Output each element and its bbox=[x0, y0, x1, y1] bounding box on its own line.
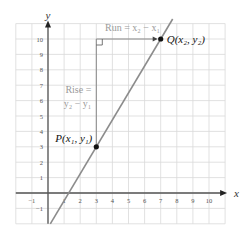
slope-diagram: −112345678910−112345678910 y x P(x₁, y₁)… bbox=[0, 0, 245, 239]
y-tick-label: 9 bbox=[40, 51, 43, 58]
point-p-label: P(x₁, y₁) bbox=[54, 132, 92, 145]
y-tick-label: −1 bbox=[36, 205, 43, 212]
y-tick-label: 8 bbox=[40, 66, 43, 73]
rise-formula-label: y₂ − y₁ bbox=[64, 98, 92, 109]
run-label: Run = x₂ − x₁ bbox=[105, 22, 160, 33]
x-tick-label: 5 bbox=[127, 197, 130, 204]
y-tick-label: 5 bbox=[40, 113, 43, 120]
right-angle-icon bbox=[96, 39, 102, 45]
x-tick-label: 3 bbox=[95, 197, 98, 204]
y-tick-label: 1 bbox=[40, 174, 43, 181]
y-tick-label: 10 bbox=[37, 36, 44, 43]
x-tick-label: 7 bbox=[159, 197, 163, 204]
point-q bbox=[158, 36, 163, 41]
x-axis-arrow-icon bbox=[220, 190, 227, 196]
tick-labels: −112345678910−112345678910 bbox=[28, 36, 212, 212]
point-p bbox=[94, 144, 99, 149]
y-tick-label: 2 bbox=[40, 159, 43, 166]
y-tick-label: 3 bbox=[40, 143, 43, 150]
y-axis-arrow-icon bbox=[45, 21, 51, 28]
x-tick-label: −1 bbox=[28, 197, 35, 204]
rise-label: Rise = bbox=[65, 84, 91, 95]
grid bbox=[16, 24, 225, 224]
x-tick-label: 9 bbox=[191, 197, 194, 204]
point-q-label: Q(x₂, y₂) bbox=[167, 33, 206, 46]
x-tick-label: 6 bbox=[143, 197, 147, 204]
x-tick-label: 10 bbox=[206, 197, 213, 204]
x-tick-label: 2 bbox=[79, 197, 82, 204]
run-arrow-icon bbox=[153, 37, 158, 42]
y-axis-label: y bbox=[45, 9, 51, 21]
x-axis-label: x bbox=[233, 187, 239, 199]
x-tick-label: 8 bbox=[175, 197, 178, 204]
x-tick-label: 4 bbox=[111, 197, 115, 204]
axes bbox=[16, 21, 227, 224]
